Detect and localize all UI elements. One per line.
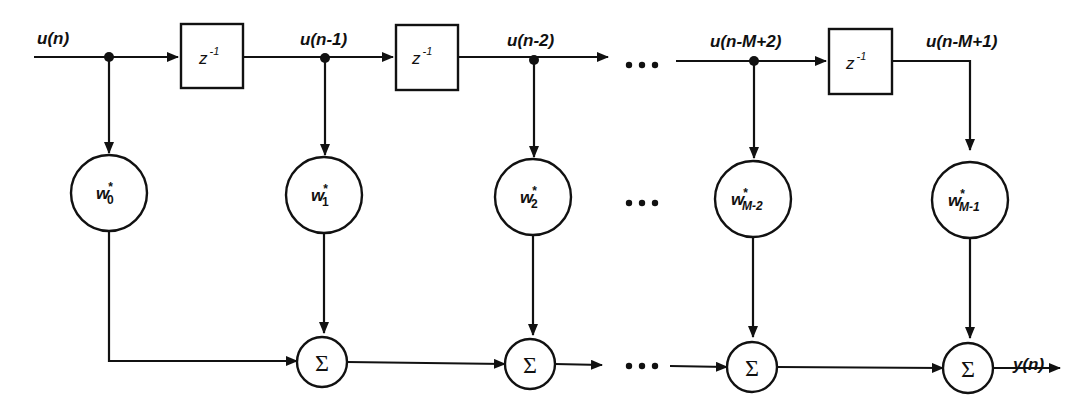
summer-2: Σ (505, 339, 555, 389)
summer-M-1: Σ (943, 343, 993, 393)
svg-text:w*2: w*2 (520, 184, 538, 211)
signal-label-u-n-1: u(n-1) (300, 30, 348, 49)
output-label-y-n: y(n) (1012, 355, 1045, 374)
weight-sub: 2 (531, 197, 538, 211)
weight-multiplier-0: w*0 (71, 155, 147, 231)
signal-label-u-n-M-1: u(n-M+1) (926, 32, 998, 51)
weight-multiplier-M-2: w*M-2 (715, 161, 791, 237)
sigma-icon: Σ (315, 350, 329, 376)
weight-sub: M-2 (742, 199, 763, 213)
weight-conj: * (532, 184, 537, 198)
delay-line: z-1 z-1 z-1 (34, 24, 970, 150)
delay-label-exponent: -1 (423, 45, 433, 57)
weight-multiplier-2: w*2 (495, 159, 571, 235)
delay-block-2: z-1 (396, 25, 458, 90)
summer-1: Σ (297, 337, 347, 387)
delay-block-3: z-1 (829, 29, 892, 94)
weight-conj: * (108, 180, 113, 194)
fir-filter-diagram: z-1 z-1 z-1 u(n) u(n-1) u(n-2) u(n-M+2) … (0, 0, 1085, 410)
weight-sub: 1 (322, 195, 329, 209)
sigma-icon: Σ (961, 356, 975, 382)
delay-block-1: z-1 (181, 24, 243, 88)
signal-label-u-n: u(n) (37, 29, 69, 48)
delay-label-base: z (198, 49, 208, 68)
ellipsis-top (626, 62, 658, 68)
svg-text:w*1: w*1 (311, 182, 329, 209)
weight-multiplier-1: w*1 (286, 157, 362, 233)
delay-label-exponent: -1 (210, 45, 220, 57)
ellipsis-middle (626, 200, 658, 206)
weight-sub: M-1 (959, 200, 980, 214)
weight-conj: * (743, 186, 748, 200)
weight-conj: * (960, 187, 965, 201)
svg-text:w*0: w*0 (96, 180, 114, 207)
delay-label-base: z (411, 49, 421, 68)
delay-label-base: z (845, 54, 855, 73)
summer-M-2: Σ (727, 342, 777, 392)
signal-label-u-n-2: u(n-2) (507, 31, 555, 50)
delay-label-exponent: -1 (857, 50, 867, 62)
weight-sub: 0 (107, 193, 114, 207)
weight-conj: * (323, 182, 328, 196)
signal-label-u-n-M-2: u(n-M+2) (710, 32, 782, 51)
sigma-icon: Σ (523, 352, 537, 378)
ellipsis-bottom (626, 363, 658, 369)
sigma-icon: Σ (745, 355, 759, 381)
weight-multiplier-M-1: w*M-1 (932, 162, 1008, 238)
